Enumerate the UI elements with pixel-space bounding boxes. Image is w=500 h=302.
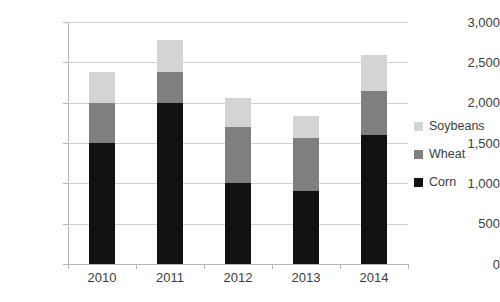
y-axis-label: 2,000	[446, 96, 500, 109]
axis-baseline	[68, 264, 408, 265]
x-axis-tick	[136, 264, 137, 269]
bar-group[interactable]	[361, 22, 387, 264]
x-axis-tick	[204, 264, 205, 269]
bars-layer	[68, 22, 408, 264]
x-axis-tick	[68, 264, 69, 269]
legend-label: Corn	[429, 176, 456, 189]
bar-group[interactable]	[293, 22, 319, 264]
x-axis-tick	[408, 264, 409, 269]
x-axis-tick	[340, 264, 341, 269]
legend-item-wheat[interactable]: Wheat	[414, 140, 485, 168]
legend-swatch-icon	[414, 150, 423, 159]
bar-segment-corn[interactable]	[225, 183, 251, 264]
bar-segment-corn[interactable]	[361, 135, 387, 264]
legend-item-corn[interactable]: Corn	[414, 168, 485, 196]
bar-group[interactable]	[225, 22, 251, 264]
bar-segment-wheat[interactable]	[293, 138, 319, 191]
x-axis-label: 2014	[340, 271, 408, 285]
x-axis-label: 2013	[272, 271, 340, 285]
bar-segment-wheat[interactable]	[89, 103, 115, 143]
bar-group[interactable]	[89, 22, 115, 264]
bar-segment-soybeans[interactable]	[293, 116, 319, 139]
x-axis-label: 2010	[68, 271, 136, 285]
bar-segment-corn[interactable]	[89, 143, 115, 264]
y-axis-label: 3,000	[446, 16, 500, 29]
bar-segment-corn[interactable]	[157, 103, 183, 264]
x-axis-label: 2012	[204, 271, 272, 285]
legend-label: Wheat	[429, 148, 465, 161]
legend-label: Soybeans	[429, 120, 485, 133]
bar-segment-wheat[interactable]	[157, 72, 183, 103]
legend-swatch-icon	[414, 178, 423, 187]
legend-item-soybeans[interactable]: Soybeans	[414, 112, 485, 140]
y-axis-label: 2,500	[446, 56, 500, 69]
bar-segment-soybeans[interactable]	[89, 72, 115, 103]
x-axis-tick	[272, 264, 273, 269]
bar-segment-soybeans[interactable]	[157, 40, 183, 72]
bar-segment-wheat[interactable]	[361, 91, 387, 135]
x-axis-label: 2011	[136, 271, 204, 285]
bar-segment-soybeans[interactable]	[225, 98, 251, 127]
bar-segment-soybeans[interactable]	[361, 55, 387, 90]
y-axis-label: 0	[446, 258, 500, 271]
y-axis-label: 500	[446, 217, 500, 230]
chart-legend: SoybeansWheatCorn	[414, 112, 485, 196]
bar-segment-wheat[interactable]	[225, 127, 251, 183]
legend-swatch-icon	[414, 122, 423, 131]
stacked-bar-chart: 05001,0001,5002,0002,5003,000 2010201120…	[0, 0, 500, 302]
bar-segment-corn[interactable]	[293, 191, 319, 264]
bar-group[interactable]	[157, 22, 183, 264]
